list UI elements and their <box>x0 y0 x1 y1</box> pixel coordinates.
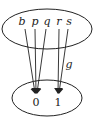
element-s: s <box>66 15 72 28</box>
function-label-g: g <box>65 58 72 71</box>
element-r: r <box>56 15 62 28</box>
element-p: p <box>31 15 38 28</box>
element-0: 0 <box>33 96 40 109</box>
element-1: 1 <box>55 96 62 109</box>
element-b: b <box>18 15 25 28</box>
codomain-set-ellipse <box>12 80 82 116</box>
element-q: q <box>43 15 50 28</box>
arrow-p-to-0 <box>35 29 36 93</box>
arrow-r-to-1 <box>58 29 59 93</box>
mapping-diagram: b p q r s g 0 1 <box>0 0 94 119</box>
arrow-q-to-0 <box>37 29 46 93</box>
